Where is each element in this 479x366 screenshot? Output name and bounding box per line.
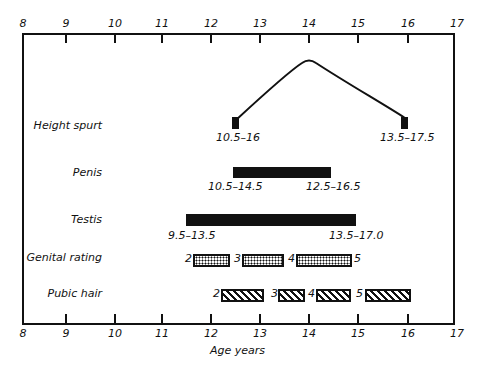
height-spurt-start-range: 10.5–16: [216, 131, 260, 144]
pubic-stage-label: 4: [308, 287, 315, 300]
pubic-stage-bar: [316, 289, 351, 302]
pubic-stage-label: 2: [213, 287, 220, 300]
pubic-stage-bar: [278, 289, 305, 302]
penis-start-range: 10.5–14.5: [208, 180, 262, 193]
pubic-stage-bar: [221, 289, 264, 302]
genital-stage-label: 3: [234, 252, 241, 265]
penis-end-range: 12.5–16.5: [306, 180, 360, 193]
genital-stage-label: 2: [185, 252, 192, 265]
penis-bar: [233, 167, 331, 178]
pubic-stage-label: 5: [356, 287, 363, 300]
pubic-stage-label: 3: [271, 287, 278, 300]
testis-bar: [186, 214, 356, 226]
genital-stage-bar: [193, 254, 230, 267]
genital-stage-bar: [296, 254, 352, 267]
testis-start-range: 9.5–13.5: [168, 229, 216, 242]
genital-stage-bar: [242, 254, 284, 267]
testis-end-range: 13.5–17.0: [329, 229, 383, 242]
pubic-stage-bar: [365, 289, 411, 302]
height-spurt-end-range: 13.5–17.5: [380, 131, 434, 144]
genital-stage-label: 4: [288, 252, 295, 265]
genital-stage-label: 5: [354, 252, 361, 265]
